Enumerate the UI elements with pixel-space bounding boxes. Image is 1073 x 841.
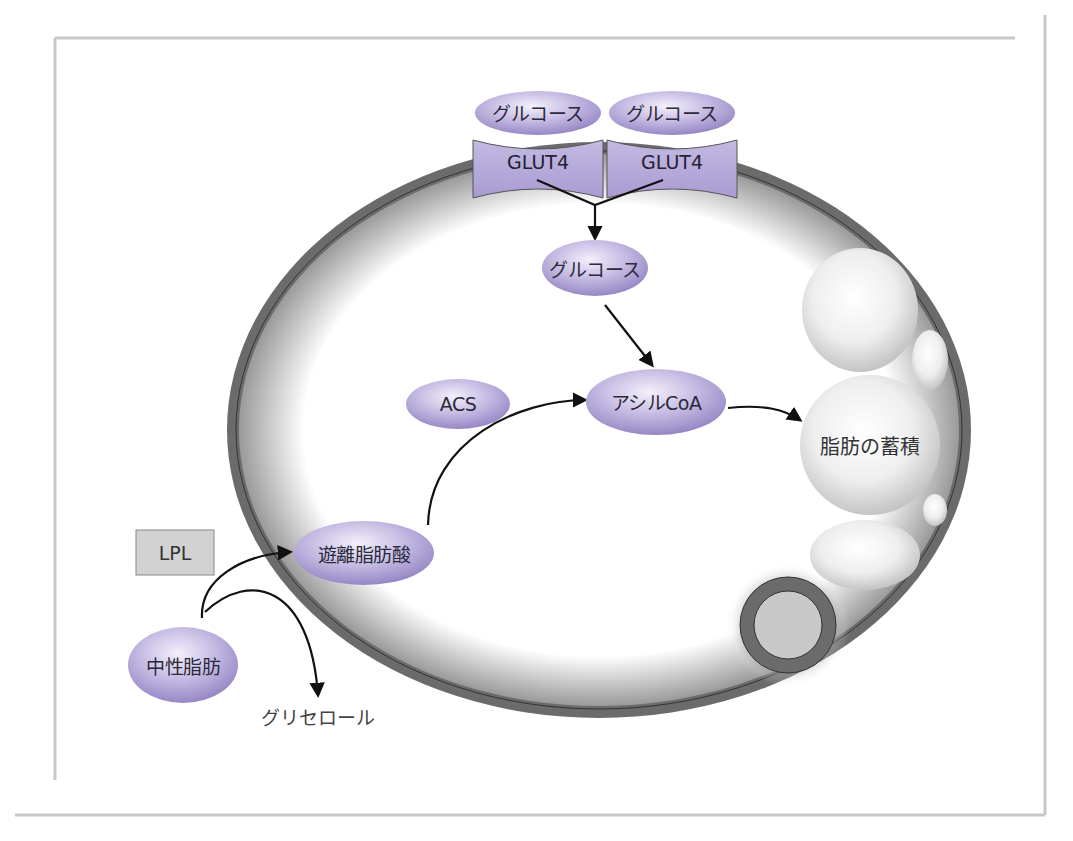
fat-storage-label: 脂肪の蓄積 bbox=[820, 431, 920, 460]
glycerol-label: グリセロール bbox=[261, 703, 375, 730]
glucose-inner-label: グルコース bbox=[549, 255, 641, 282]
nucleus bbox=[726, 563, 850, 687]
glut4-1-label: GLUT4 bbox=[507, 151, 569, 173]
glut4-2-label: GLUT4 bbox=[641, 151, 703, 173]
free-fatty-acid-label: 遊離脂肪酸 bbox=[318, 540, 411, 567]
triglyceride-label: 中性脂肪 bbox=[146, 652, 220, 679]
adipocyte-diagram: グルコース GLUT4 グルコース GLUT4 グルコース アシルCoA ACS… bbox=[0, 0, 1073, 841]
diagram-canvas bbox=[0, 0, 1073, 841]
acs-label: ACS bbox=[440, 393, 477, 415]
acyl-coa-label: アシルCoA bbox=[611, 388, 702, 415]
glut4-1-substrate-label: グルコース bbox=[492, 99, 584, 126]
lpl-label: LPL bbox=[159, 542, 192, 564]
glut4-2-substrate-label: グルコース bbox=[626, 99, 718, 126]
